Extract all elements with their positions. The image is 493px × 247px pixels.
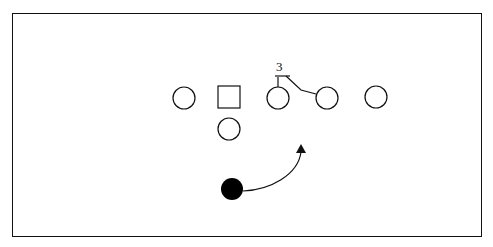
quarterback-circle xyxy=(218,118,240,140)
play-diagram: 3 xyxy=(0,0,493,247)
route-number-label: 3 xyxy=(276,59,283,74)
player-5-circle xyxy=(365,86,387,108)
player-3-circle xyxy=(267,87,289,109)
ball-carrier-circle xyxy=(221,178,243,200)
player-1-circle xyxy=(173,87,195,109)
player-4-circle xyxy=(316,87,338,109)
center-square xyxy=(218,86,240,108)
block-route xyxy=(275,76,316,94)
arrowhead-icon xyxy=(296,144,306,153)
ball-carrier-route-arrow xyxy=(243,152,301,191)
